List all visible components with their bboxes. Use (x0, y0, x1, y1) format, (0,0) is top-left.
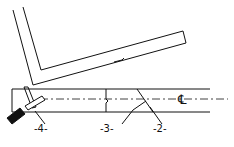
scriber-tool (7, 87, 45, 124)
label-part2: -2- (153, 123, 167, 134)
technical-drawing: -4- -3- -2- ℄ (0, 0, 234, 147)
l-square (13, 7, 186, 85)
label-part4: -4- (34, 123, 48, 134)
centerline-symbol: ℄ (177, 92, 187, 107)
label-part3: -3- (100, 123, 114, 134)
